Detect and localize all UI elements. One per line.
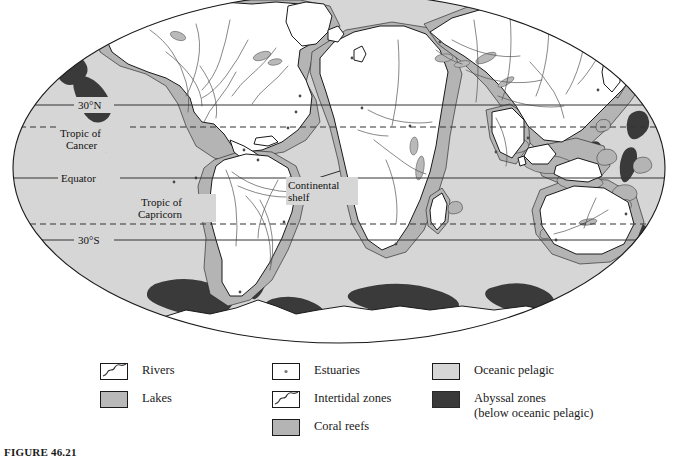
continental-shelf (644, 230, 668, 268)
legend-column-2: Estuaries Intertidal zones Coral reefs (272, 362, 391, 446)
legend-item-coral-reefs: Coral reefs (272, 418, 391, 437)
estuary (173, 181, 176, 184)
intertidal-zones-swatch (272, 391, 300, 408)
river-line-icon (273, 392, 299, 407)
legend-label-abyssal-zones-wrapper: Abyssal zones (below oceanic pelagic) (474, 390, 593, 421)
estuary (239, 291, 242, 294)
estuary (361, 107, 364, 110)
label-equator: Equator (61, 172, 96, 184)
estuary (283, 221, 286, 224)
coral-reef (448, 201, 463, 214)
legend-column-1: Rivers Lakes (100, 362, 175, 418)
abyssal-zone (23, 245, 47, 280)
legend-item-lakes: Lakes (100, 390, 175, 409)
legend-column-3: Oceanic pelagic Abyssal zones (below oce… (432, 362, 593, 429)
rivers-swatch (100, 363, 128, 380)
estuary-dot-icon (273, 364, 299, 379)
legend-item-oceanic-pelagic: Oceanic pelagic (432, 362, 593, 381)
label-tropic-of-capricorn-line1: Tropic of (141, 196, 182, 208)
estuary (395, 243, 398, 246)
legend-item-intertidal-zones: Intertidal zones (272, 390, 391, 409)
label-tropic-of-cancer-line1: Tropic of (60, 127, 101, 139)
label-tropic-of-capricorn-line2: Capricorn (138, 208, 182, 220)
estuary (287, 127, 290, 130)
legend-label-lakes: Lakes (142, 390, 172, 406)
figure-caption: FIGURE 46.21 (4, 446, 77, 458)
estuary (439, 41, 442, 44)
legend-label-oceanic-pelagic: Oceanic pelagic (474, 362, 554, 378)
estuary (527, 137, 530, 140)
legend-label-rivers: Rivers (142, 362, 175, 378)
lakes-swatch (100, 391, 128, 408)
estuary (597, 89, 600, 92)
river-line-icon (101, 364, 127, 379)
landmass-sri-lanka (518, 156, 526, 166)
label-tropic-of-cancer-line2: Cancer (66, 139, 97, 151)
legend-label-estuaries: Estuaries (314, 362, 360, 378)
label-continental-shelf-line1: Continental (288, 179, 339, 191)
legend-label-abyssal-zones: Abyssal zones (474, 391, 546, 405)
estuary (351, 57, 354, 60)
estuary (495, 151, 498, 154)
coral-reefs-swatch (272, 419, 300, 436)
estuary (243, 149, 246, 152)
legend-label-coral-reefs: Coral reefs (314, 418, 369, 434)
landmass-new-zealand (647, 234, 663, 264)
estuaries-swatch (272, 363, 300, 380)
legend-item-rivers: Rivers (100, 362, 175, 381)
map-legend: Rivers Lakes Estuaries Intertidal zones (0, 362, 679, 442)
label-30s: 30°S (78, 234, 100, 246)
world-map-figure: 30°N Equator 30°S Tropic of Cancer Tropi… (0, 0, 679, 360)
legend-sublabel-abyssal-zones: (below oceanic pelagic) (474, 406, 593, 421)
legend-item-abyssal-zones: Abyssal zones (below oceanic pelagic) (432, 390, 593, 420)
legend-label-intertidal-zones: Intertidal zones (314, 390, 391, 406)
estuary (299, 95, 302, 98)
label-continental-shelf-line2: shelf (288, 191, 310, 203)
estuary (625, 213, 628, 216)
label-30n: 30°N (78, 99, 101, 111)
estuary (295, 111, 298, 114)
legend-item-estuaries: Estuaries (272, 362, 391, 381)
oceanic-pelagic-swatch (432, 363, 460, 380)
map-svg: 30°N Equator 30°S Tropic of Cancer Tropi… (0, 0, 679, 360)
estuary (257, 159, 260, 162)
abyssal-zones-swatch (432, 391, 460, 408)
